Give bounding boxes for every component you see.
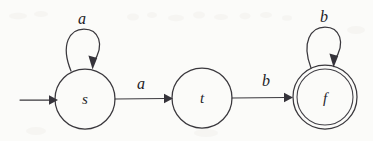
transition-label-s-self: a xyxy=(78,10,86,27)
transition-label-f-self: b xyxy=(320,8,328,25)
state-machine-diagram: s a a t b f xyxy=(0,0,373,141)
self-loop-s-a[interactable] xyxy=(66,29,99,71)
transition-t-to-f[interactable] xyxy=(232,93,293,103)
state-node-s[interactable]: s xyxy=(55,69,115,129)
state-label-s: s xyxy=(82,91,88,107)
start-arrow xyxy=(20,95,58,105)
state-label-t: t xyxy=(200,90,205,106)
transition-s-to-t[interactable] xyxy=(115,94,173,104)
state-node-t[interactable]: t xyxy=(172,68,232,128)
self-loop-f-b[interactable] xyxy=(307,27,341,68)
transition-label-s-to-t: a xyxy=(137,75,145,92)
diagram-canvas: s a a t b f xyxy=(0,0,373,141)
state-label-f: f xyxy=(323,90,329,106)
state-node-f[interactable]: f xyxy=(293,65,357,129)
transition-label-t-to-f: b xyxy=(262,72,270,89)
